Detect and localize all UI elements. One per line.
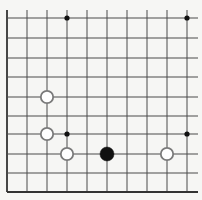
white-stone[interactable] xyxy=(61,148,73,160)
star-point-icon xyxy=(64,131,69,136)
white-stone[interactable] xyxy=(41,128,53,140)
black-stone[interactable] xyxy=(100,147,114,161)
star-point-icon xyxy=(184,131,189,136)
go-board[interactable] xyxy=(0,0,202,200)
star-point-icon xyxy=(184,15,189,20)
star-point-icon xyxy=(64,15,69,20)
white-stone[interactable] xyxy=(161,148,173,160)
board-background xyxy=(0,0,202,200)
white-stone[interactable] xyxy=(41,91,53,103)
